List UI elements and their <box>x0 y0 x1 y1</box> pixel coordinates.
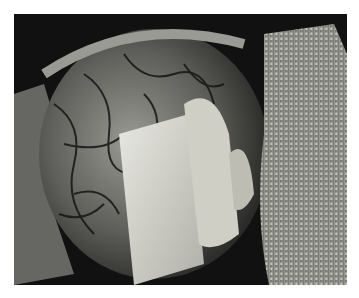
gauze <box>260 24 347 285</box>
photo-illustration <box>14 14 347 285</box>
surgical-photo <box>14 14 347 285</box>
